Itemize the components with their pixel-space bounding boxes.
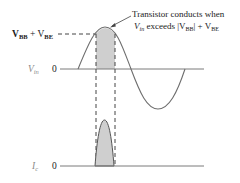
annotation-line-1: Transistor conducts when [132,9,225,19]
class-c-waveform-diagram: VBB + VBE Vin 0 Ic 0 Transistor conducts… [0,0,240,183]
ic-zero-label: 0 [52,161,57,171]
ic-axis-label: Ic [31,161,38,172]
annotation-line-2: Vin exceeds |VBB| + VBE [134,21,219,32]
vin-conduction-region [96,28,115,69]
vin-axis-label: Vin [28,64,39,75]
vin-sine-wave [78,27,185,109]
vin-zero-label: 0 [52,64,57,74]
ic-current-pulse [95,120,114,166]
threshold-label: VBB + VBE [12,29,53,40]
arrow-head-icon [110,23,116,28]
